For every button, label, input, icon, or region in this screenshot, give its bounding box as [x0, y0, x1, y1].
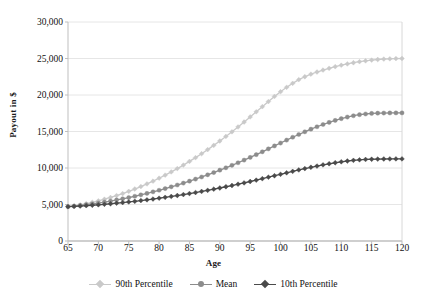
- x-tick-label: 75: [114, 243, 144, 253]
- x-axis-title: Age: [0, 258, 427, 268]
- legend-entry-1[interactable]: 90th Percentile: [89, 279, 172, 289]
- x-tick-label: 105: [296, 243, 326, 253]
- x-tick-label: 85: [174, 243, 204, 253]
- legend-marker-icon: [190, 280, 212, 289]
- x-tick-label: 70: [83, 243, 113, 253]
- x-tick-label: 100: [266, 243, 296, 253]
- x-tick-label: 80: [144, 243, 174, 253]
- x-tick-label: 90: [205, 243, 235, 253]
- x-tick-label: 110: [326, 243, 356, 253]
- x-tick-label: 120: [387, 243, 417, 253]
- x-tick-label: 95: [235, 243, 265, 253]
- chart-figure: Payout in $ 05,00010,00015,00020,00025,0…: [0, 0, 427, 306]
- x-tick-label: 115: [357, 243, 387, 253]
- legend-label: Mean: [216, 279, 238, 289]
- legend-label: 10th Percentile: [280, 279, 337, 289]
- x-tick-label: 65: [53, 243, 83, 253]
- legend-marker-icon: [254, 280, 276, 289]
- legend-entry-3[interactable]: 10th Percentile: [254, 279, 337, 289]
- legend-entry-2[interactable]: Mean: [190, 279, 238, 289]
- legend-marker-icon: [89, 280, 111, 289]
- legend-label: 90th Percentile: [115, 279, 172, 289]
- chart-legend: 90th PercentileMean10th Percentile: [0, 279, 427, 289]
